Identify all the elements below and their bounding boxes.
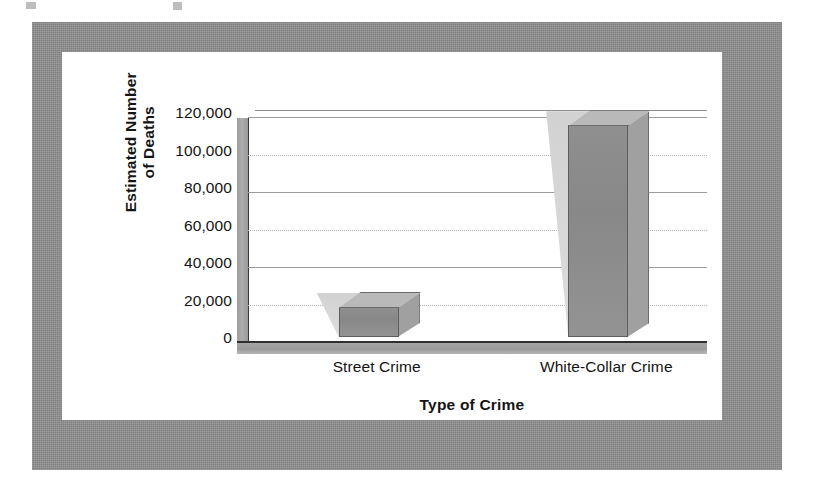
scan-artifact-mark (173, 2, 182, 10)
y-axis-tick-label: 120,000 (175, 104, 232, 122)
y-axis-tick-label: 40,000 (184, 254, 232, 272)
chart-panel: Estimated Number of Deaths 120,000100,00… (62, 52, 722, 420)
x-axis-tick-label: White-Collar Crime (540, 358, 673, 376)
bar-side-face (627, 111, 649, 337)
bar[interactable] (568, 111, 628, 337)
y-axis-tick-label: 20,000 (184, 292, 232, 310)
y-axis-tick-label: 100,000 (175, 142, 232, 160)
plot-area (237, 110, 707, 350)
y-axis-wall-3d (237, 117, 248, 342)
floor-3d (237, 341, 707, 354)
figure-border: Estimated Number of Deaths 120,000100,00… (32, 22, 782, 470)
y-axis-tick-label: 0 (223, 329, 232, 347)
bar-front-face (568, 125, 628, 337)
scan-artifact-mark (26, 2, 36, 9)
y-axis-tick-label: 60,000 (184, 217, 232, 235)
bar-front-face (339, 307, 399, 337)
y-axis-tick-labels: 120,000100,00080,00060,00040,00020,0000 (140, 106, 232, 350)
x-axis-title: Type of Crime (237, 396, 707, 414)
x-axis-tick-labels: Street CrimeWhite-Collar Crime (237, 358, 707, 384)
x-axis-tick-label: Street Crime (333, 358, 421, 376)
y-axis-tick-label: 80,000 (184, 179, 232, 197)
